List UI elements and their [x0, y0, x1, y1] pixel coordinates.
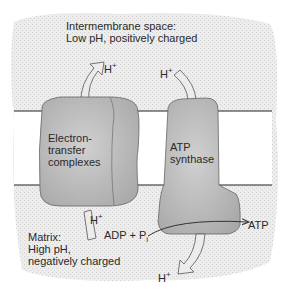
atp-product-label: ATP	[248, 219, 269, 231]
intermembrane-title: Intermembrane space:	[66, 20, 197, 32]
h-ion-label-atp-in: H+	[160, 68, 173, 80]
intermembrane-label: Intermembrane space: Low pH, positively …	[66, 20, 197, 44]
atp-synthase-label: ATP synthase	[170, 141, 214, 165]
h-ion-label-etc-in: H+	[90, 214, 103, 226]
matrix-label: Matrix: High pH, negatively charged	[28, 231, 120, 267]
h-ion-label-atp-out: H+	[158, 272, 171, 284]
diagram-canvas: Intermembrane space: Low pH, positively …	[0, 0, 286, 293]
intermembrane-desc: Low pH, positively charged	[66, 32, 197, 44]
h-ion-label-etc-out: H+	[104, 63, 117, 75]
etc-complex-label: Electron- transfer complexes	[48, 132, 101, 168]
